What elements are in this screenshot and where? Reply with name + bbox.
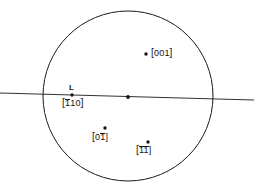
pole-marker-001 bbox=[144, 52, 147, 55]
miller-index-overbarred: 1 bbox=[100, 132, 105, 142]
miller-indices: 001 bbox=[154, 48, 170, 58]
miller-indices-overbarred: 11 bbox=[139, 145, 149, 155]
pole-marker-bar1bar10 bbox=[146, 140, 149, 143]
stereogram-canvas bbox=[0, 0, 254, 195]
miller-indices-rest: ] bbox=[149, 145, 152, 155]
stereographic-projection-figure: L [001] [110] [01] [11] bbox=[0, 0, 254, 195]
pole-marker-0bar10 bbox=[103, 126, 106, 129]
pole-marker-1bar10 bbox=[70, 93, 73, 96]
bracket-close: ] bbox=[81, 97, 84, 108]
pole-label-001: [001] bbox=[151, 48, 173, 58]
pole-label-1bar10: [110] bbox=[62, 98, 84, 108]
miller-index-overbarred: 1 bbox=[65, 98, 70, 108]
miller-indices-rest: 10 bbox=[70, 98, 80, 108]
projection-center-marker bbox=[126, 95, 130, 99]
miller-indices-rest: ] bbox=[105, 132, 108, 142]
bracket-close: ] bbox=[170, 47, 173, 58]
trace-line-label-L: L bbox=[69, 84, 74, 92]
pole-label-0bar10: [01] bbox=[92, 132, 108, 142]
pole-label-bar1bar10: [11] bbox=[136, 145, 151, 155]
